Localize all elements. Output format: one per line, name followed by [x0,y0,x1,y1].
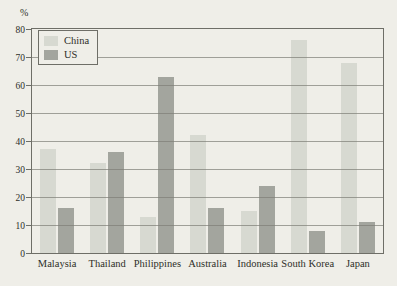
y-tick-label: 0 [20,249,25,259]
bar-us-south-korea [309,231,325,253]
y-tick-label: 50 [16,109,26,119]
gridline [32,113,383,114]
y-tick-label: 60 [16,81,26,91]
bar-us-malaysia [58,208,74,253]
y-axis-tick [26,29,31,30]
bar-us-japan [359,222,375,253]
y-axis-tick [26,113,31,114]
legend-label-us: US [64,49,77,60]
category-label-australia: Australia [188,258,227,269]
bar-china-australia [190,135,206,253]
y-axis-tick [26,169,31,170]
y-axis-tick [26,85,31,86]
bar-us-indonesia [259,186,275,253]
category-label-malaysia: Malaysia [38,258,77,269]
category-label-philippines: Philippines [134,258,181,269]
bar-china-philippines [140,217,156,253]
bar-us-australia [208,208,224,253]
legend-label-china: China [64,35,89,46]
category-label-south-korea: South Korea [281,258,334,269]
bar-china-thailand [90,163,106,253]
gridline [32,225,383,226]
bar-china-south-korea [291,40,307,253]
legend-item-china: China [44,35,89,46]
bar-china-indonesia [241,211,257,253]
bar-china-malaysia [40,149,56,253]
y-axis-tick [26,57,31,58]
y-axis-tick [26,253,31,254]
category-label-thailand: Thailand [89,258,126,269]
y-axis-unit-label: % [20,8,28,18]
category-label-japan: Japan [346,258,370,269]
figure: % MalaysiaThailandPhilippinesAustraliaIn… [0,0,397,286]
bar-us-thailand [108,152,124,253]
legend-item-us: US [44,49,89,60]
category-label-indonesia: Indonesia [237,258,278,269]
legend-swatch-china [44,36,58,46]
bar-us-philippines [158,77,174,253]
y-axis-tick [26,225,31,226]
y-axis-tick [26,141,31,142]
y-tick-label: 30 [16,165,26,175]
y-tick-label: 10 [16,221,26,231]
y-tick-label: 40 [16,137,26,147]
gridline [32,141,383,142]
y-tick-label: 80 [16,25,26,35]
y-axis-tick [26,197,31,198]
legend: China US [38,30,98,65]
gridline [32,197,383,198]
legend-swatch-us [44,50,58,60]
y-tick-label: 70 [16,53,26,63]
gridline [32,85,383,86]
plot-area: MalaysiaThailandPhilippinesAustraliaIndo… [31,28,384,254]
gridline [32,169,383,170]
y-tick-label: 20 [16,193,26,203]
